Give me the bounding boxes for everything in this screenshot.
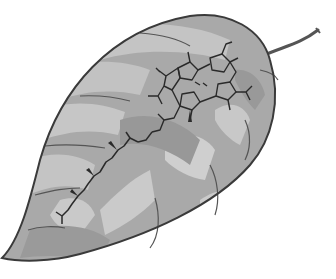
leaf-illustration: Leaf with chlorophyll molecule drawn on … [0,0,336,279]
leaf-svg [0,0,336,279]
leaf-body [0,0,336,279]
leaf-stem [262,30,318,56]
